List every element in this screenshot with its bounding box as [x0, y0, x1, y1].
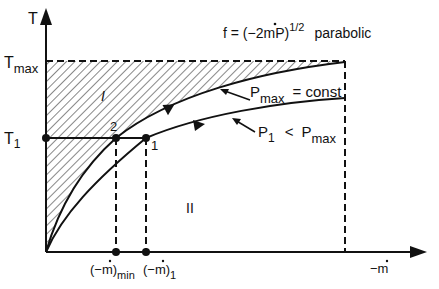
x-axis-label-dot	[386, 260, 388, 262]
x-tick-m-min: (−m)min	[90, 262, 135, 281]
t-max-label: Tmax	[4, 54, 39, 76]
m-min-point	[112, 248, 120, 256]
p1-leader-arrow-icon	[232, 118, 241, 125]
x-tick-m1-dot	[162, 260, 164, 262]
region-ii-label: II	[186, 200, 194, 216]
p1-curve-arrow-icon	[193, 120, 205, 131]
formula-label: f = (−2mP)1/2parabolic	[223, 21, 371, 41]
t1-label: T1	[4, 130, 21, 151]
t1-point	[42, 134, 50, 142]
y-axis-arrow-icon	[40, 8, 52, 25]
point-2	[112, 134, 120, 142]
p-max-curve-arrow-icon	[163, 103, 176, 116]
point-2-label: 2	[110, 119, 117, 134]
point-1	[142, 134, 150, 142]
x-axis-arrow-icon	[410, 246, 427, 258]
y-axis-label: T	[28, 10, 38, 27]
formula-m-dot	[274, 23, 277, 26]
m1-point	[142, 248, 150, 256]
x-tick-m-min-dot	[109, 260, 111, 262]
p1-curve-label: P1<Pmax	[258, 123, 337, 146]
region-i-label: I	[101, 88, 105, 104]
parabolic-pressure-diagram: T Tmax T1 f = (−2mP)1/2parabolic I II 2 …	[0, 0, 439, 289]
x-tick-m1: (−m)1	[143, 262, 176, 281]
point-1-label: 1	[151, 138, 158, 153]
x-axis-label: −m	[370, 261, 388, 276]
